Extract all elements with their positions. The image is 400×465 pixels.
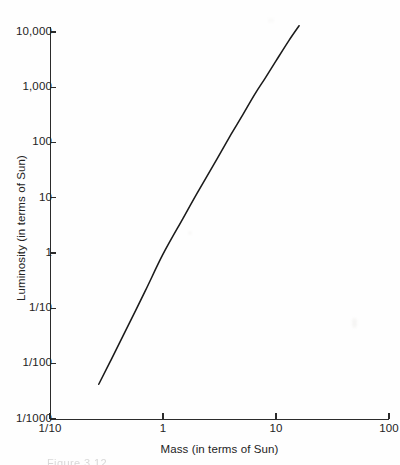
plot-area <box>0 0 400 465</box>
mass-luminosity-curve <box>99 26 299 385</box>
mass-luminosity-figure: 10,0001,0001001011/101/1001/1000 1/10110… <box>0 0 400 465</box>
figure-caption-remnant: Figure 3.12 <box>47 457 197 465</box>
